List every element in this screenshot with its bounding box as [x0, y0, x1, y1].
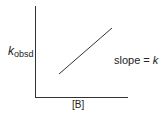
data-line [59, 28, 112, 74]
x-axis-label: [B] [72, 99, 84, 110]
y-axis-label: kobsd [8, 44, 34, 59]
slope-annotation: slope = k [114, 54, 158, 66]
